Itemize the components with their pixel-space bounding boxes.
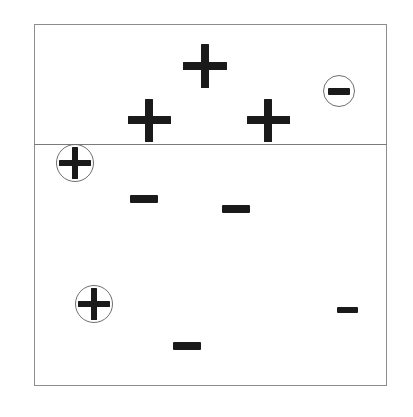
decision-boundary-line — [34, 144, 387, 145]
plus-icon-plus-circled-1 — [59, 147, 91, 179]
plus-icon-plus-1 — [183, 44, 227, 88]
plus-glyph — [78, 288, 110, 320]
figure-root — [0, 0, 413, 417]
plus-glyph — [183, 44, 227, 88]
minus-icon-minus-3 — [337, 300, 358, 321]
minus-horizontal-bar — [130, 195, 158, 203]
minus-horizontal-bar — [173, 342, 201, 350]
minus-glyph — [173, 332, 201, 360]
plus-vertical-bar — [91, 288, 97, 320]
plus-icon-plus-3 — [247, 99, 290, 142]
minus-icon-minus-1 — [130, 185, 158, 213]
minus-icon-minus-2 — [222, 195, 250, 223]
plus-glyph — [128, 99, 171, 142]
minus-glyph — [222, 195, 250, 223]
minus-glyph — [328, 80, 350, 102]
minus-horizontal-bar — [337, 307, 358, 313]
plus-glyph — [247, 99, 290, 142]
plus-glyph — [59, 147, 91, 179]
plus-icon-plus-circled-2 — [78, 288, 110, 320]
plus-vertical-bar — [145, 99, 153, 142]
minus-icon-minus-4 — [173, 332, 201, 360]
minus-glyph — [337, 300, 358, 321]
minus-horizontal-bar — [328, 88, 350, 95]
plus-vertical-bar — [264, 99, 272, 142]
plus-icon-plus-2 — [128, 99, 171, 142]
minus-glyph — [130, 185, 158, 213]
minus-icon-minus-circled-1 — [328, 80, 350, 102]
minus-horizontal-bar — [222, 205, 250, 213]
plus-vertical-bar — [72, 147, 78, 179]
plus-vertical-bar — [201, 44, 209, 88]
